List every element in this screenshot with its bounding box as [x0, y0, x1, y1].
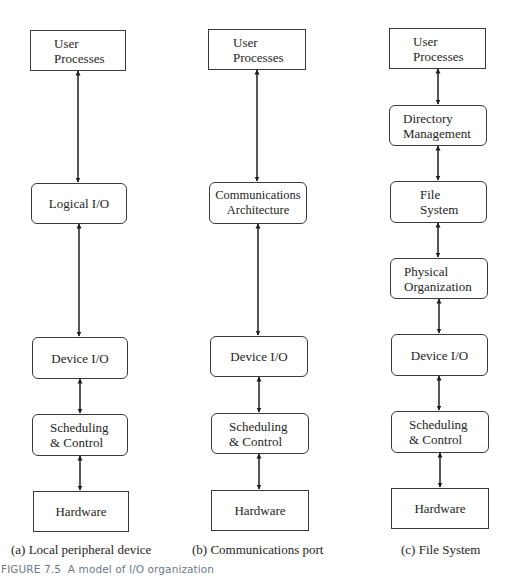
figure-title: A model of I/O organization	[68, 563, 214, 575]
box-label-line2: & Control	[409, 432, 462, 447]
box-label-line1: Directory	[403, 111, 453, 126]
box-label-line2: Processes	[413, 49, 464, 64]
box-label-line2: System	[420, 202, 458, 217]
box-c-directory-management: Directory Management	[389, 105, 487, 146]
box-label-line1: Hardware	[414, 501, 465, 516]
box-label-line2: & Control	[50, 435, 103, 450]
box-b-user-processes: User Processes	[208, 29, 306, 70]
box-label-line1: User	[413, 34, 438, 49]
figure-number: FIGURE 7.5	[1, 563, 61, 575]
box-label-line1: File	[420, 187, 440, 202]
subcaption-b: (b) Communications port	[192, 542, 323, 558]
box-c-file-system: File System	[390, 181, 487, 223]
box-label-line1: Scheduling	[229, 419, 288, 434]
box-label-line2: Architecture	[227, 203, 289, 218]
figure-caption: FIGURE 7.5 A model of I/O organization	[1, 563, 214, 575]
box-b-scheduling-control: Scheduling & Control	[211, 413, 309, 454]
box-label-line1: Logical I/O	[49, 196, 109, 211]
box-label-line1: Scheduling	[409, 417, 468, 432]
box-a-device-io: Device I/O	[32, 337, 128, 379]
box-label-line2: Processes	[233, 50, 284, 65]
box-c-user-processes: User Processes	[389, 28, 486, 69]
box-b-hardware: Hardware	[211, 490, 309, 531]
box-label-line2: Management	[403, 126, 471, 141]
box-label-line2: Organization	[404, 279, 472, 294]
box-a-scheduling-control: Scheduling & Control	[32, 414, 128, 456]
box-label-line1: Hardware	[55, 504, 106, 519]
box-b-device-io: Device I/O	[210, 336, 308, 377]
box-c-physical-organization: Physical Organization	[390, 258, 488, 299]
box-label-line2: & Control	[229, 434, 282, 449]
box-c-scheduling-control: Scheduling & Control	[391, 411, 489, 453]
box-label-line1: Scheduling	[50, 420, 109, 435]
box-label-line1: User	[233, 35, 258, 50]
box-a-hardware: Hardware	[33, 491, 129, 532]
box-label-line1: Device I/O	[411, 348, 468, 363]
box-label-line1: Device I/O	[51, 351, 108, 366]
box-c-device-io: Device I/O	[391, 334, 488, 376]
box-label-line1: Device I/O	[230, 349, 287, 364]
box-label-line1: Hardware	[234, 503, 285, 518]
subcaption-c: (c) File System	[401, 542, 480, 558]
box-label-line1: User	[54, 36, 79, 51]
box-b-communications-architecture: Communications Architecture	[209, 182, 307, 224]
io-organization-figure: User Processes Logical I/O Device I/O Sc…	[0, 0, 514, 582]
box-label-line2: Processes	[54, 51, 105, 66]
box-a-logical-io: Logical I/O	[31, 183, 127, 224]
box-label-line1: Physical	[404, 264, 448, 279]
box-c-hardware: Hardware	[391, 488, 489, 529]
box-a-user-processes: User Processes	[30, 30, 126, 71]
box-label-line1: Communications	[215, 188, 300, 203]
subcaption-a: (a) Local peripheral device	[11, 542, 151, 558]
